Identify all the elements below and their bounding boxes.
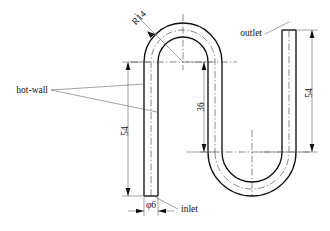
dim-text-mid-36: 36 — [196, 102, 206, 112]
outlet-label: outlet — [240, 28, 262, 38]
arrow-right-top — [310, 30, 315, 38]
hot-wall-leader-upper — [51, 84, 145, 90]
radius-line — [155, 34, 183, 62]
hot-wall-label: hot-wall — [16, 85, 48, 95]
tube-outer-wall — [144, 23, 282, 196]
arrow-right-bottom — [310, 144, 315, 152]
hot-wall-leaders — [51, 84, 157, 112]
technical-drawing-canvas: 54 36 54 — [0, 0, 330, 231]
arrow-left-top — [126, 62, 131, 70]
arrow-mid-top — [202, 62, 207, 70]
arrow-phi-left — [136, 209, 144, 214]
arrow-mid-bottom — [202, 144, 207, 152]
arrow-left-bottom — [126, 188, 131, 196]
outlet-leader-line — [265, 22, 289, 34]
arrow-phi-right — [158, 209, 166, 214]
inlet-label: inlet — [181, 204, 198, 214]
hot-wall-leader-lower — [51, 90, 157, 112]
tube-drawing-svg: 54 36 54 — [0, 0, 330, 231]
dim-text-left-54: 54 — [120, 126, 130, 136]
dim-text-right-54: 54 — [304, 88, 314, 98]
dim-text-phi6: φ6 — [146, 200, 156, 210]
inlet-leader-line — [155, 197, 178, 209]
